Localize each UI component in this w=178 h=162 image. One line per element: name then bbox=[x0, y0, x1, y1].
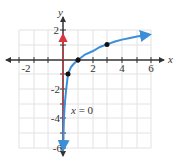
grid bbox=[19, 30, 151, 148]
y-tick-2: 2 bbox=[54, 24, 60, 36]
y-tick-m2: -2 bbox=[51, 83, 60, 95]
x-tick-m2: -2 bbox=[21, 62, 30, 74]
y-axis-label: y bbox=[57, 6, 63, 18]
x-tick-4: 4 bbox=[119, 62, 125, 74]
point-3-1 bbox=[105, 42, 110, 47]
y-tick-m6: -6 bbox=[53, 142, 63, 154]
log-graph: -2 2 4 6 2 -2 -4 -6 x y x = 0 bbox=[0, 0, 178, 162]
point-third-neg1 bbox=[66, 72, 71, 77]
y-tick-m4: -4 bbox=[51, 112, 61, 124]
asymptote-label: x = 0 bbox=[70, 104, 94, 116]
x-axis-label: x bbox=[167, 53, 173, 65]
point-1-0 bbox=[76, 58, 81, 63]
x-tick-6: 6 bbox=[148, 62, 154, 74]
x-tick-2: 2 bbox=[90, 62, 96, 74]
